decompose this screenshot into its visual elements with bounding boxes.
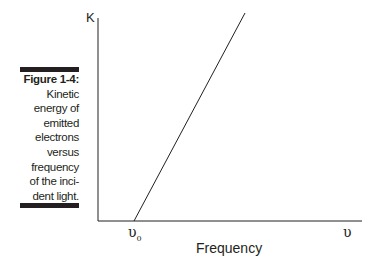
threshold-symbol: υ: [128, 224, 137, 240]
y-axis-label: K: [86, 10, 95, 25]
x-axis-label: Frequency: [196, 240, 262, 256]
data-line: [134, 13, 245, 221]
chart-plot: [0, 0, 378, 265]
threshold-subscript: 0: [137, 234, 142, 243]
x-tick-end: υ: [343, 224, 352, 240]
x-tick-threshold: υ0: [128, 224, 142, 243]
